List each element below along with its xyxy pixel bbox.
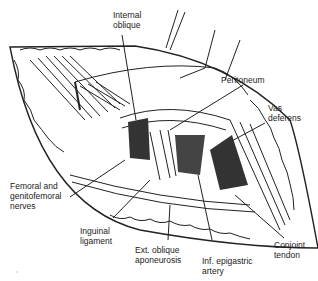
fat-left [14,60,64,152]
fat-upper [20,48,120,50]
shade-center [175,135,205,175]
leader-femoral [70,160,125,197]
retractor [166,10,240,80]
label-ext-oblique-aponeurosis: Ext. oblique aponeurosis [135,245,181,265]
label-inf-epigastric-artery: Inf. epigastric artery [202,256,253,276]
label-internal-oblique: Internal oblique [113,10,141,30]
illustration [0,0,318,281]
leader-internal-oblique [122,35,136,120]
shade-left [128,118,150,160]
leader-conjoint [235,195,284,238]
label-femoral-genitofemoral-nerves: Femoral and genitofemoral nerves [10,181,62,211]
label-peritoneum: Peritoneum [221,75,264,85]
label-inguinal-ligament: Inguinal ligament [80,226,112,246]
label-conjoint-tendon: Conjoint tendon [274,240,305,260]
anatomy-diagram: Internal oblique Peritoneum Vas deferens… [0,0,318,281]
label-vas-deferens: Vas deferens [268,103,301,123]
shade-right [210,135,248,190]
leader-peritoneum [170,85,243,130]
